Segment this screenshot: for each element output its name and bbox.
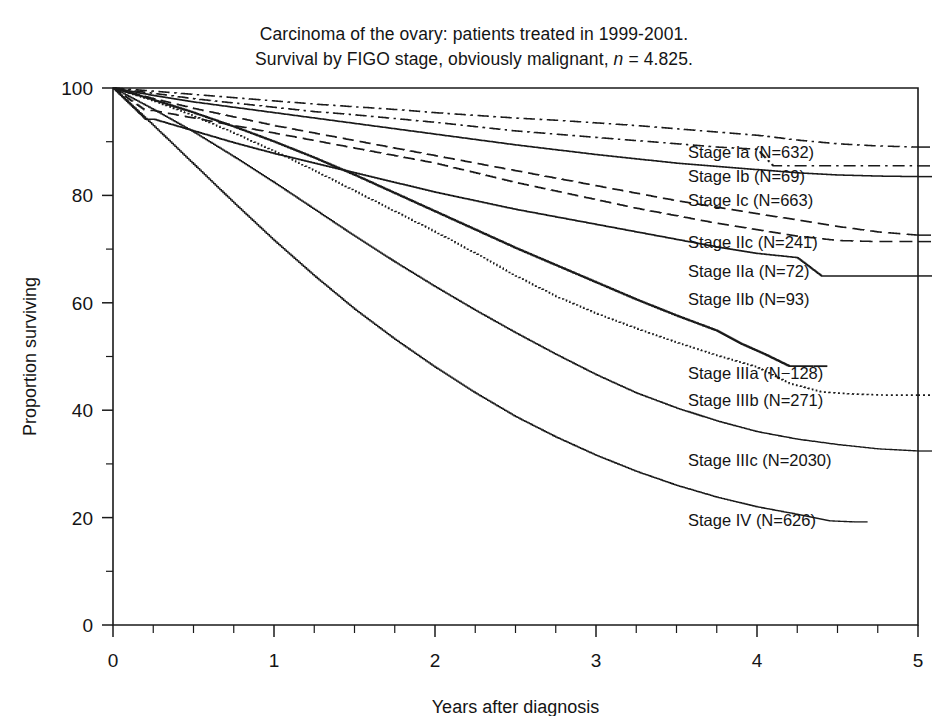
legend-label-stage-ib: Stage Ib (N=69) [688, 167, 805, 185]
legend-label-stage-iia: Stage IIa (N=72) [688, 262, 810, 280]
y-tick-label: 80 [72, 185, 93, 206]
x-tick-label: 1 [269, 650, 280, 671]
legend-label-stage-iiia: Stage IIIa (N−128) [688, 364, 823, 382]
legend-label-stage-iiib: Stage IIIb (N=271) [688, 391, 823, 409]
x-tick-label: 5 [913, 650, 924, 671]
curve-stage-iiia [113, 88, 813, 366]
survival-chart-figure: Carcinoma of the ovary: patients treated… [0, 0, 948, 716]
x-tick-label: 4 [752, 650, 763, 671]
legend-label-stage-ia: Stage Ia (N=632) [688, 143, 814, 161]
legend-label-stage-iiic: Stage IIIc (N=2030) [688, 451, 832, 469]
legend-label-stage-ic: Stage Ic (N=663) [688, 191, 813, 209]
curve-stage-iic [113, 88, 918, 235]
y-tick-label: 20 [72, 508, 93, 529]
legend-label-stage-iib: Stage IIb (N=93) [688, 290, 810, 308]
y-tick-label: 40 [72, 400, 93, 421]
x-tick-label: 3 [591, 650, 602, 671]
x-axis-title: Years after diagnosis [432, 697, 599, 716]
legend-label-stage-iv: Stage IV (N=626) [688, 511, 816, 529]
y-tick-label: 100 [61, 78, 93, 99]
legend-label-stage-iic: Stage IIc (N=241) [688, 233, 818, 251]
y-tick-label: 60 [72, 293, 93, 314]
curve-stage-iia [113, 88, 918, 242]
x-tick-label: 2 [430, 650, 441, 671]
plot-area: 020406080100012345 Years after diagnosis… [0, 0, 948, 716]
x-tick-label: 0 [108, 650, 119, 671]
y-tick-label: 0 [82, 615, 93, 636]
y-axis-title: Proportion surviving [20, 277, 40, 436]
